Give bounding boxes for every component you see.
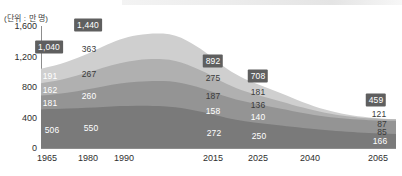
- total-badge-2025: 708: [248, 70, 268, 83]
- x-axis-line: [41, 148, 396, 149]
- x-tick-2015: 2015: [203, 153, 223, 163]
- total-badge-1980: 1,440: [74, 19, 102, 32]
- value-1980-band1: 550: [84, 123, 98, 133]
- value-1965-band3: 162: [43, 85, 57, 95]
- value-2015-band2: 158: [206, 106, 220, 116]
- value-2015-band4: 275: [206, 73, 220, 83]
- value-2025-band2: 140: [251, 112, 265, 122]
- x-tick-2040: 2040: [300, 153, 320, 163]
- top-divider-bar: [122, 0, 402, 5]
- value-1980-band3: 267: [82, 69, 96, 79]
- total-badge-2015: 892: [203, 55, 223, 68]
- value-1980-band2: 260: [82, 91, 96, 101]
- value-2025-band1: 250: [252, 131, 266, 141]
- value-1965-band4: 191: [43, 71, 57, 81]
- x-tick-2025: 2025: [248, 153, 268, 163]
- value-2025-band4: 181: [251, 87, 265, 97]
- y-axis-ticks: 1,600 1,200 800 400 0: [0, 26, 37, 148]
- y-tick-1200: 1,200: [14, 52, 37, 62]
- chart-root: (단위 : 만 명) 1,600 1,200 800 400 0 1,040 1…: [0, 0, 402, 176]
- value-2065-band4: 121: [372, 109, 386, 119]
- value-1965-band2: 181: [43, 98, 57, 108]
- x-tick-1990: 1990: [114, 153, 134, 163]
- value-1965-band1: 506: [45, 125, 59, 135]
- value-2025-band3: 136: [251, 100, 265, 110]
- value-2015-band1: 272: [207, 128, 221, 138]
- total-badge-2065: 459: [366, 94, 386, 107]
- value-2065-band1: 166: [373, 136, 387, 146]
- y-tick-1600: 1,600: [14, 21, 37, 31]
- x-tick-2065: 2065: [368, 153, 388, 163]
- y-tick-800: 800: [22, 82, 37, 92]
- y-tick-0: 0: [32, 143, 37, 153]
- x-tick-1980: 1980: [78, 153, 98, 163]
- total-badge-1965: 1,040: [35, 41, 63, 54]
- x-tick-1965: 1965: [37, 153, 57, 163]
- value-2015-band3: 187: [206, 91, 220, 101]
- plot-area: 1,040 191 162 181 506 1,440 363 267 260 …: [41, 26, 396, 148]
- value-1980-band4: 363: [82, 44, 96, 54]
- y-tick-400: 400: [22, 113, 37, 123]
